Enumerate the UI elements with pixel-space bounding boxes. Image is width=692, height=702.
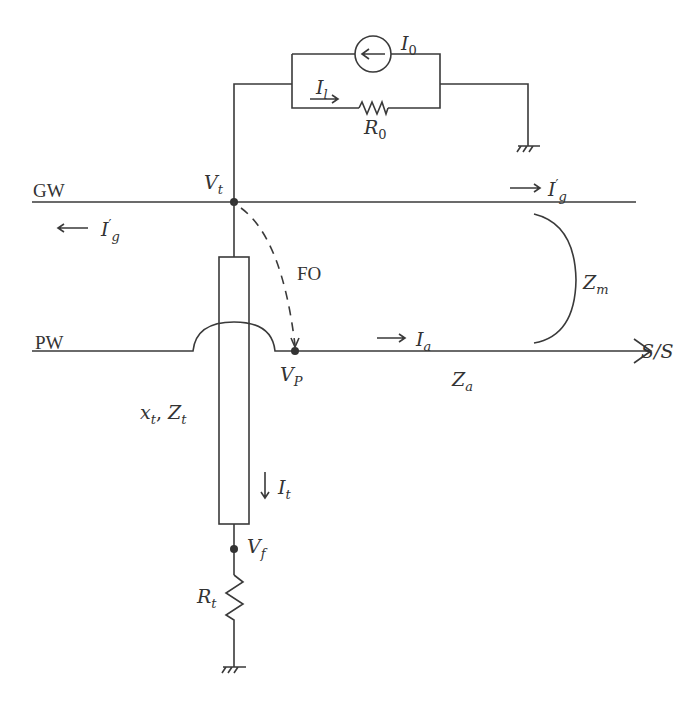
ground-icon-bottom: [222, 667, 246, 673]
ground-icon-top: [517, 146, 540, 152]
label-r0: R0: [364, 118, 387, 141]
label-vf: Vf: [247, 537, 266, 560]
circuit-wires: [0, 0, 692, 702]
label-vt: Vt: [204, 173, 223, 196]
ig-left-arrow-icon: [58, 224, 88, 232]
label-ig-left: I′g: [101, 218, 120, 243]
mutual-coupling-arc: [534, 214, 576, 343]
ig-right-arrow-icon: [510, 184, 540, 192]
label-zm: Zm: [583, 273, 609, 296]
parallel-right-rail: [388, 54, 440, 108]
ground-lead: [440, 84, 528, 146]
label-i0: I0: [401, 34, 417, 57]
ia-arrow-icon: [377, 334, 405, 342]
label-za: Za: [452, 370, 473, 393]
label-vp: VP: [280, 365, 302, 388]
label-ia: Ia: [416, 330, 431, 353]
label-pw: PW: [35, 333, 64, 352]
resistor-r0-icon: [359, 102, 388, 114]
tower-body: [219, 257, 249, 524]
resistor-rt-icon: [226, 575, 243, 667]
label-ig-right: I′g: [548, 178, 567, 203]
circuit-diagram: I0 Il R0 GW Vt I′g I′g FO Zm PW Ia S/S V…: [0, 0, 692, 702]
label-ss: S/S: [641, 342, 673, 361]
it-arrow-icon: [261, 472, 269, 498]
label-rt: Rt: [197, 587, 217, 610]
label-it: It: [278, 478, 291, 501]
label-il: Il: [316, 78, 328, 101]
source-arrow-icon: [362, 49, 385, 59]
label-fo: FO: [297, 264, 321, 283]
label-xt-zt: xt, Zt: [140, 403, 186, 426]
node-vf: [230, 545, 238, 553]
phase-wire-line: [32, 322, 650, 351]
tower-top-lead: [234, 84, 292, 202]
label-gw: GW: [33, 181, 65, 200]
